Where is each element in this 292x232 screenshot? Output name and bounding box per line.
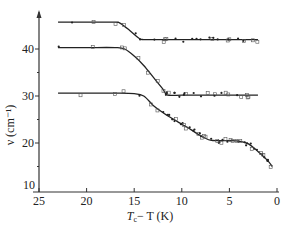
fit-curve-2 (58, 47, 258, 95)
data-point-open (224, 137, 227, 140)
data-point-filled (208, 36, 210, 38)
data-point-filled (221, 139, 223, 141)
data-point-filled (250, 142, 252, 144)
data-point-filled (195, 38, 197, 40)
data-point-filled (192, 130, 194, 132)
data-point-filled (182, 41, 184, 43)
data-point-filled (173, 92, 175, 94)
phonon-frequency-chart: 252015105040302010 Tc− T (K) ν (cm⁻¹) (0, 0, 292, 232)
data-points (58, 20, 273, 168)
x-tick-label: 5 (226, 194, 232, 208)
data-point-filled (138, 95, 140, 97)
data-point-open (250, 147, 253, 150)
x-tick-label: 15 (128, 194, 140, 208)
fit-curve-3 (58, 93, 272, 166)
data-point-filled (174, 37, 176, 39)
data-point-filled (199, 38, 201, 40)
data-point-filled (71, 21, 73, 23)
x-tick-label: 20 (81, 194, 93, 208)
data-point-filled (244, 141, 246, 143)
data-point-filled (245, 144, 247, 146)
data-point-filled (237, 38, 239, 40)
data-point-filled (236, 94, 238, 96)
y-tick-label: 40 (22, 42, 34, 56)
data-point-filled (217, 38, 219, 40)
x-tick-label: 0 (274, 194, 280, 208)
y-axis-label: ν (cm⁻¹) (3, 105, 17, 146)
x-tick-label: 25 (33, 194, 45, 208)
data-point-filled (58, 46, 60, 48)
data-point-filled (267, 159, 269, 161)
data-point-filled (256, 149, 258, 151)
data-point-filled (200, 95, 202, 97)
data-point-filled (165, 94, 167, 96)
data-point-filled (162, 111, 164, 113)
data-point-filled (199, 132, 201, 134)
data-point-filled (193, 92, 195, 94)
data-point-filled (139, 38, 141, 40)
data-point-filled (210, 138, 212, 140)
data-point-open (256, 40, 259, 43)
data-point-filled (263, 156, 265, 158)
data-point-filled (173, 120, 175, 122)
y-tick-label: 20 (22, 136, 34, 150)
y-axis-arrow-icon (37, 10, 42, 18)
y-tick-label: 30 (22, 89, 34, 103)
data-point-open (79, 94, 82, 97)
data-point-filled (227, 38, 229, 40)
data-point-filled (253, 148, 255, 150)
data-point-filled (178, 96, 180, 98)
data-point-filled (220, 92, 222, 94)
fit-curve-1 (58, 22, 258, 40)
data-point-filled (191, 38, 193, 40)
y-tick-label: 10 (23, 178, 35, 192)
x-axis-label: Tc− T (K) (127, 209, 174, 224)
x-tick-label: 10 (176, 194, 188, 208)
data-point-filled (212, 37, 214, 39)
data-point-filled (183, 94, 185, 96)
data-point-filled (226, 141, 228, 143)
data-point-filled (153, 38, 155, 40)
data-point-filled (213, 95, 215, 97)
data-point-open (122, 90, 125, 93)
data-point-filled (246, 142, 248, 144)
data-point-filled (167, 114, 169, 116)
data-point-open (240, 96, 243, 99)
data-point-filled (189, 126, 191, 128)
data-point-filled (135, 32, 137, 34)
data-point-open (114, 23, 117, 26)
data-point-filled (200, 135, 202, 137)
data-point-filled (171, 118, 173, 120)
data-point-open (206, 91, 209, 94)
